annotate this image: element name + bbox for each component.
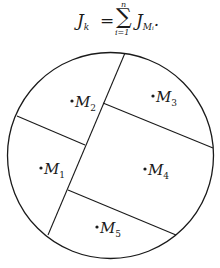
svg-text:M2: M2 <box>74 93 96 113</box>
partition-diagram: M1 M2 M3 M4 M5 <box>0 0 220 268</box>
region-label-m2: M2 <box>70 93 96 113</box>
divider-m3-m4 <box>103 103 213 148</box>
svg-text:M5: M5 <box>99 219 121 239</box>
svg-text:M3: M3 <box>155 88 177 108</box>
divider-m1-m2 <box>17 116 85 145</box>
region-label-m4: M4 <box>143 161 169 181</box>
svg-text:M4: M4 <box>147 161 169 181</box>
divider-main-diagonal <box>48 53 125 235</box>
divider-m4-m5 <box>68 190 176 235</box>
region-label-m5: M5 <box>95 219 121 239</box>
region-label-m1: M1 <box>39 160 65 180</box>
region-label-m3: M3 <box>151 88 177 108</box>
svg-text:M1: M1 <box>43 160 65 180</box>
